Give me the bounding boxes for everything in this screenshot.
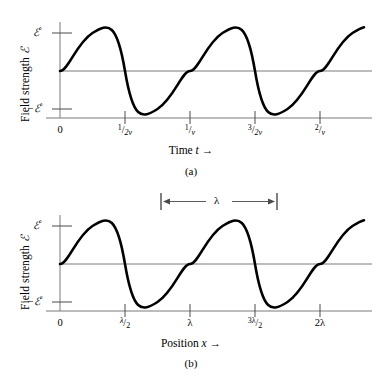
- y-tick-top-sup-b: °: [39, 219, 42, 227]
- x-axis-title-text-b: Position: [161, 337, 199, 349]
- x-tick-label-3-b: 3λ/2: [248, 317, 263, 328]
- annotation-arrow-left-icon-b: [163, 199, 170, 205]
- y-tick-bottom-sup-a: °: [40, 102, 43, 110]
- x-tick-label-1-b: λ/2: [120, 317, 130, 328]
- x-tick-3-den-a: 2ν: [255, 128, 263, 137]
- wavelength-annotation-label-b: λ: [214, 194, 219, 206]
- x-tick-1-den-a: 2ν: [125, 128, 133, 137]
- plot-area-b: λ Field strength ℰ ℰ° −ℰ° 0 λ/2 λ 3λ/2 2…: [0, 188, 382, 333]
- x-tick-label-3-a: 3/2ν: [248, 124, 262, 135]
- x-tick-label-2-a: 1/ν: [185, 124, 195, 135]
- x-tick-4-den-a: ν: [322, 128, 326, 137]
- x-tick-label-4-b: 2λ: [315, 317, 325, 328]
- y-tick-label-top-b: ℰ°: [33, 219, 42, 231]
- y-tick-bottom-symbol-b: −ℰ: [27, 296, 40, 307]
- plot-area-a: Field strength ℰ ℰ° −ℰ° 0 1/2ν 1/ν 3/2ν …: [0, 0, 382, 145]
- x-axis-title-text-a: Time: [169, 144, 193, 156]
- x-axis-arrow-icon-b: →: [210, 337, 222, 349]
- x-tick-label-2-b: λ: [187, 317, 192, 328]
- x-axis-title-b: Position x →: [0, 337, 382, 349]
- y-tick-label-bottom-a: −ℰ°: [27, 102, 43, 114]
- x-tick-label-0-a: 0: [57, 124, 62, 135]
- x-tick-label-1-a: 1/2ν: [118, 124, 132, 135]
- panel-a: Field strength ℰ ℰ° −ℰ° 0 1/2ν 1/ν 3/2ν …: [0, 0, 382, 188]
- x-axis-title-symbol-a: t: [196, 144, 199, 156]
- x-axis-title-symbol-b: x: [202, 337, 207, 349]
- y-tick-bottom-sup-b: °: [40, 295, 43, 303]
- x-tick-1-den-b: 2: [126, 321, 130, 330]
- x-axis-title-a: Time t →: [0, 144, 382, 156]
- panel-caption-a: (a): [0, 165, 382, 177]
- y-axis-title-symbol-b: ℰ: [19, 235, 31, 242]
- x-tick-label-4-a: 2/ν: [315, 124, 325, 135]
- annotation-arrow-right-icon-b: [268, 199, 275, 205]
- panel-caption-b: (b): [0, 357, 382, 369]
- x-tick-3-den-b: 2: [258, 321, 262, 330]
- x-tick-3-num-b: 3λ: [248, 316, 256, 325]
- wave-plot-b: [0, 188, 382, 338]
- y-tick-bottom-symbol-a: −ℰ: [27, 103, 40, 114]
- x-axis-arrow-icon-a: →: [202, 144, 214, 156]
- panel-b: λ Field strength ℰ ℰ° −ℰ° 0 λ/2 λ 3λ/2 2…: [0, 188, 382, 377]
- y-tick-label-bottom-b: −ℰ°: [27, 295, 43, 307]
- y-tick-label-top-a: ℰ°: [33, 26, 42, 38]
- x-tick-2-den-a: ν: [192, 128, 196, 137]
- y-tick-top-sup-a: °: [39, 26, 42, 34]
- x-tick-label-0-b: 0: [57, 317, 62, 328]
- y-axis-title-symbol-a: ℰ: [19, 47, 31, 54]
